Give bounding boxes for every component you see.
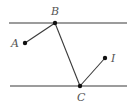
segment-a-b [25,23,55,43]
geometry-diagram: A B C I [0,0,133,103]
label-i: I [110,52,116,65]
point-c [78,84,82,88]
label-a: A [10,37,19,50]
label-c: C [77,91,86,103]
point-a [23,41,27,45]
point-i [103,56,107,60]
segment-c-i [80,58,105,86]
segment-b-c [55,23,80,86]
point-b [53,21,57,25]
label-b: B [50,5,59,18]
